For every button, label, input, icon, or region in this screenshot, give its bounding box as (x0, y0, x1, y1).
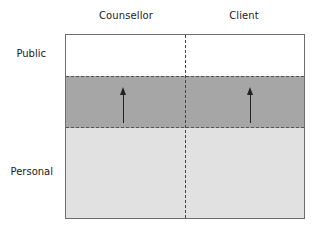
arrow-shaft (250, 93, 251, 123)
row-label-public: Public (0, 48, 46, 59)
column-divider-dashed (185, 35, 186, 218)
column-label-counsellor: Counsellor (76, 10, 176, 21)
column-label-client: Client (194, 10, 294, 21)
diagram-frame (65, 34, 305, 219)
row-label-personal: Personal (3, 166, 53, 177)
arrow-shaft (123, 93, 124, 123)
